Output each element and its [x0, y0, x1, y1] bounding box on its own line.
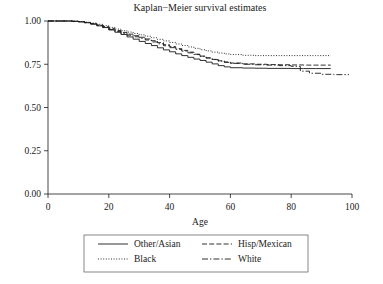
curve-white	[48, 21, 349, 75]
legend-label-hisp-mexican: Hisp/Mexican	[238, 239, 292, 249]
x-tick-label: 40	[165, 202, 175, 212]
y-tick-label: 0.00	[24, 189, 41, 199]
chart-title: Kaplan−Meier survival estimates	[134, 2, 267, 13]
x-tick-label: 20	[104, 202, 114, 212]
kaplan-meier-chart: Kaplan−Meier survival estimates0.000.250…	[0, 0, 383, 284]
legend-label-black: Black	[134, 254, 156, 264]
chart-canvas: Kaplan−Meier survival estimates0.000.250…	[0, 0, 383, 284]
y-tick-label: 0.50	[24, 103, 41, 113]
y-tick-label: 1.00	[24, 16, 41, 26]
x-tick-label: 60	[226, 202, 236, 212]
x-axis-title: Age	[192, 217, 208, 227]
curve-black	[48, 21, 331, 56]
x-tick-label: 100	[345, 202, 360, 212]
y-tick-label: 0.75	[24, 60, 41, 70]
y-tick-label: 0.25	[24, 146, 41, 156]
curve-other-asian	[48, 21, 331, 69]
legend-label-other-asian: Other/Asian	[134, 239, 181, 249]
x-tick-label: 80	[286, 202, 296, 212]
legend-label-white: White	[238, 254, 261, 264]
curve-hisp-mexican	[48, 21, 331, 65]
x-tick-label: 0	[46, 202, 51, 212]
